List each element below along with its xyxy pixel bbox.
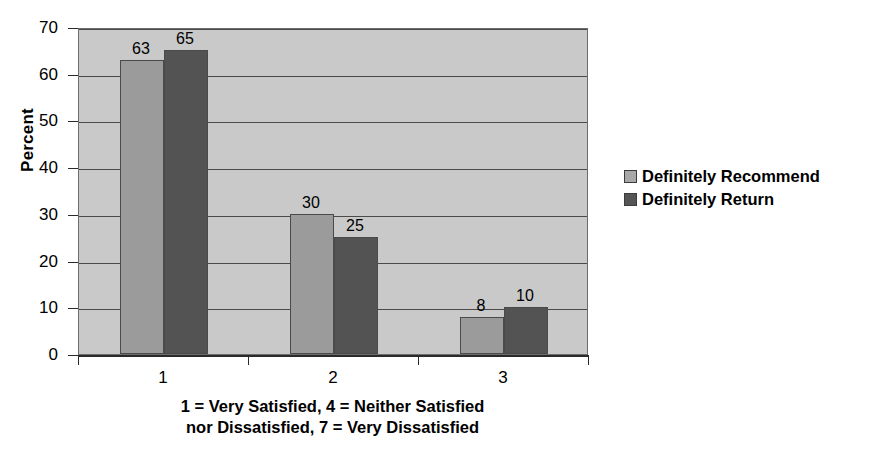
y-tick-label: 70 <box>2 19 58 36</box>
bar <box>164 50 208 354</box>
bar <box>120 60 164 354</box>
x-tick-mark <box>418 355 419 365</box>
bar <box>334 237 378 354</box>
y-tick-mark <box>68 168 78 169</box>
y-tick-mark <box>68 262 78 263</box>
bar <box>504 307 548 354</box>
chart-legend: Definitely RecommendDefinitely Return <box>624 166 864 212</box>
y-tick-label: 30 <box>2 206 58 223</box>
y-tick-mark <box>68 121 78 122</box>
y-tick-label: 50 <box>2 112 58 129</box>
y-tick-label: 10 <box>2 299 58 316</box>
x-axis-caption-line: nor Dissatisfied, 7 = Very Dissatisfied <box>60 417 605 438</box>
plot-area <box>78 28 588 355</box>
x-axis-caption-line: 1 = Very Satisfied, 4 = Neither Satisfie… <box>60 396 605 417</box>
y-tick-mark <box>68 355 78 356</box>
legend-item: Definitely Return <box>624 189 864 210</box>
x-axis-caption: 1 = Very Satisfied, 4 = Neither Satisfie… <box>60 396 605 438</box>
legend-item: Definitely Recommend <box>624 166 864 187</box>
y-tick-label: 60 <box>2 66 58 83</box>
bar-value-label: 30 <box>281 195 341 211</box>
x-tick-label: 3 <box>463 369 543 386</box>
y-tick-mark <box>68 308 78 309</box>
x-tick-label: 2 <box>293 369 373 386</box>
bar <box>460 317 504 354</box>
x-tick-mark <box>78 355 79 365</box>
y-tick-label: 20 <box>2 253 58 270</box>
x-tick-label: 1 <box>123 369 203 386</box>
y-tick-label: 0 <box>2 346 58 363</box>
legend-swatch-icon <box>624 193 637 206</box>
bar-value-label: 25 <box>325 218 385 234</box>
legend-label: Definitely Return <box>642 191 774 208</box>
bar-value-label: 10 <box>495 288 555 304</box>
gridline <box>79 29 587 30</box>
y-tick-mark <box>68 28 78 29</box>
x-tick-mark <box>588 355 589 365</box>
y-tick-mark <box>68 75 78 76</box>
bar-value-label: 65 <box>155 31 215 47</box>
x-axis-line <box>78 355 589 357</box>
bar-chart-figure: Percent 010203040506070 63653025810 123 … <box>0 0 875 467</box>
x-tick-mark <box>248 355 249 365</box>
y-tick-mark <box>68 215 78 216</box>
legend-label: Definitely Recommend <box>642 168 820 185</box>
bar <box>290 214 334 354</box>
legend-swatch-icon <box>624 170 637 183</box>
y-tick-label: 40 <box>2 159 58 176</box>
